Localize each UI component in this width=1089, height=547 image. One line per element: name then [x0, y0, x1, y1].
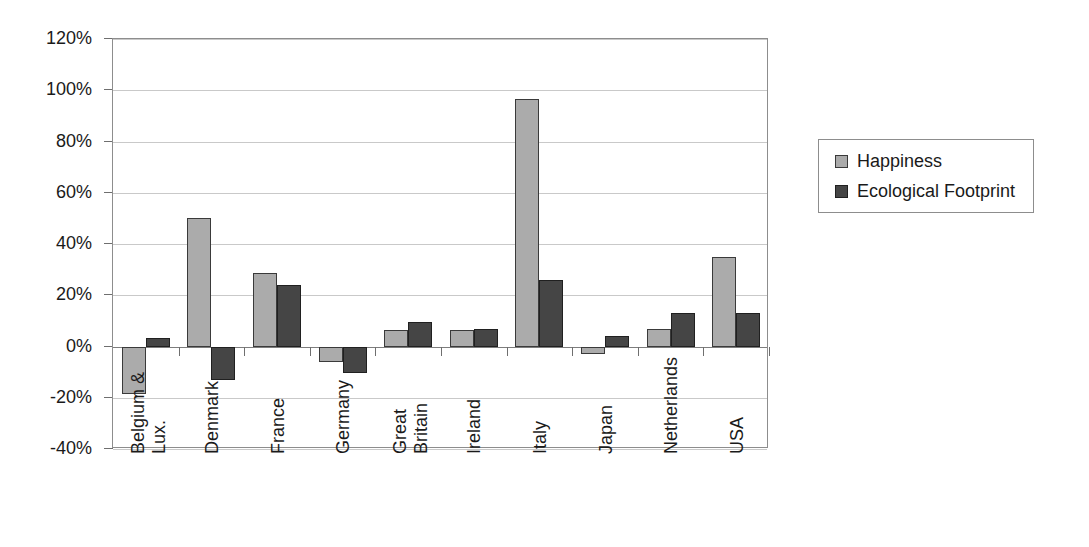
legend-swatch-icon [835, 155, 848, 168]
x-axis-category-label: France [269, 398, 288, 454]
x-axis-category-label: Netherlands [662, 357, 681, 454]
x-axis-labels: Belgium &Lux.DenmarkFranceGermanyGreatBr… [0, 0, 1089, 547]
x-axis-category-label-line: Italy [530, 421, 550, 454]
legend-item-happiness: Happiness [835, 151, 942, 172]
x-axis-category-label-line: Netherlands [661, 357, 681, 454]
x-axis-category-label: Denmark [203, 381, 222, 454]
x-axis-category-label: Germany [334, 380, 353, 454]
x-axis-category-label-line: Germany [333, 380, 353, 454]
x-axis-category-label-line: Britain [411, 403, 432, 454]
x-axis-category-label-line: Great [390, 409, 410, 454]
legend-swatch-icon [835, 185, 848, 198]
x-axis-category-label-line: Ireland [464, 399, 484, 454]
x-axis-category-label-line: Belgium & [128, 372, 148, 454]
x-axis-category-label: Belgium &Lux. [128, 372, 170, 454]
x-axis-category-label-line: USA [727, 417, 747, 454]
x-axis-category-label: Ireland [465, 399, 484, 454]
legend-item-label: Ecological Footprint [857, 181, 1015, 202]
x-axis-category-label: Japan [597, 405, 616, 454]
x-axis-category-label: GreatBritain [390, 403, 432, 454]
x-axis-category-label-line: France [268, 398, 288, 454]
x-axis-category-label-line: Japan [596, 405, 616, 454]
x-axis-category-label: Italy [531, 421, 550, 454]
legend-item-ecological-footprint: Ecological Footprint [835, 181, 1015, 202]
bar-chart-figure: 120%100%80%60%40%20%0%-20%-40% Belgium &… [0, 0, 1089, 547]
chart-legend: Happiness Ecological Footprint [818, 139, 1034, 213]
legend-item-label: Happiness [857, 151, 942, 172]
x-axis-category-label: USA [728, 417, 747, 454]
x-axis-category-label-line: Lux. [149, 372, 170, 454]
x-axis-category-label-line: Denmark [202, 381, 222, 454]
